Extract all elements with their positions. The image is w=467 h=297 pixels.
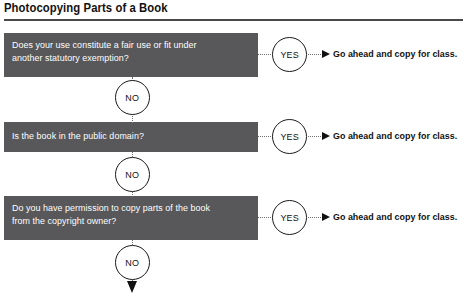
yes-node-3: YES <box>272 200 307 235</box>
connector-yes1-to-outcome <box>308 54 323 55</box>
outcome-label-2: Go ahead and copy for class. <box>333 130 457 141</box>
question-1-line-1: Does your use constitute a fair use or f… <box>12 39 243 52</box>
yes-node-1: YES <box>272 37 307 72</box>
question-2-line-1: Is the book in the public domain? <box>12 130 243 143</box>
arrowhead-right-icon-1 <box>322 50 330 58</box>
arrowhead-right-icon-2 <box>322 132 330 140</box>
no-node-2-label: NO <box>126 170 140 180</box>
yes-node-3-label: YES <box>280 213 298 223</box>
connector-yes2-to-outcome <box>308 136 323 137</box>
no-node-1-label: NO <box>126 93 140 103</box>
yes-node-2: YES <box>272 119 307 154</box>
yes-node-2-label: YES <box>280 132 298 142</box>
no-node-3-label: NO <box>126 258 140 268</box>
connector-box3-to-yes <box>258 217 273 218</box>
flowchart-page: Photocopying Parts of a Book Does your u… <box>0 0 467 297</box>
question-box-2: Is the book in the public domain? <box>4 122 258 152</box>
page-title: Photocopying Parts of a Book <box>4 1 168 15</box>
arrowhead-right-icon-3 <box>322 213 330 221</box>
question-box-1: Does your use constitute a fair use or f… <box>4 33 258 77</box>
no-node-1: NO <box>115 80 150 115</box>
outcome-label-1: Go ahead and copy for class. <box>333 48 457 59</box>
outcome-label-3: Go ahead and copy for class. <box>333 211 457 222</box>
connector-box2-to-yes <box>258 136 273 137</box>
connector-yes3-to-outcome <box>308 217 323 218</box>
connector-box1-to-yes <box>258 54 273 55</box>
question-3-line-1: Do you have permission to copy parts of … <box>12 202 243 215</box>
no-node-2: NO <box>115 157 150 192</box>
title-divider <box>4 19 463 21</box>
no-node-3: NO <box>115 245 150 280</box>
question-1-line-2: another statutory exemption? <box>12 52 243 65</box>
yes-node-1-label: YES <box>280 50 298 60</box>
arrowhead-down-icon <box>127 281 137 293</box>
question-box-3: Do you have permission to copy parts of … <box>4 196 258 240</box>
question-3-line-2: from the copyright owner? <box>12 215 243 228</box>
